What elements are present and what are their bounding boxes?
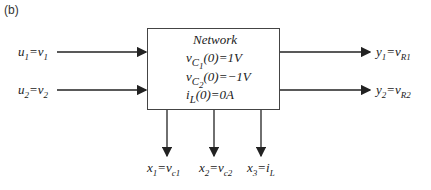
block-title: Network (193, 32, 237, 48)
input-u2: u2=v2 (18, 82, 48, 100)
output-y1: y1=vR1 (376, 44, 411, 62)
state-x3: x3=iL (247, 160, 275, 178)
state-x1: x1=vc1 (147, 160, 180, 178)
condition-il: iL(0)=0A (186, 87, 234, 105)
state-x2: x2=vc2 (199, 160, 232, 178)
output-y2: y2=vR2 (376, 82, 411, 100)
input-u1: u1=v1 (18, 44, 48, 62)
condition-vc1: vC1(0)=1V (186, 50, 242, 71)
